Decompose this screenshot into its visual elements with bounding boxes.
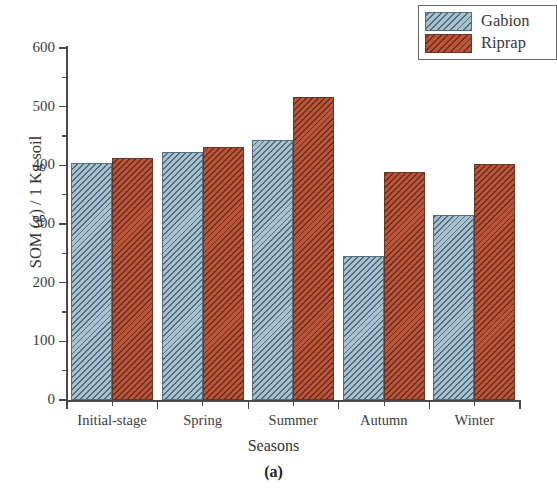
y-tick-label: 0	[1, 392, 55, 407]
bar-gabion-spring	[162, 152, 203, 400]
x-tick-minor	[474, 401, 475, 406]
legend-label-riprap: Riprap	[481, 33, 526, 53]
legend-item-riprap: Riprap	[425, 32, 550, 54]
x-tick-label: Initial-stage	[77, 412, 146, 429]
y-tick-label: 600	[1, 40, 55, 55]
x-tick-minor	[202, 401, 203, 406]
x-tick-major	[66, 401, 67, 409]
x-tick-major	[338, 401, 339, 409]
y-axis-title: SOM (g) / 1 Kg soil	[26, 102, 46, 302]
bar-riprap-initial-stage	[112, 158, 153, 400]
x-tick-major	[157, 401, 158, 409]
x-tick-major	[519, 401, 520, 409]
bar-riprap-summer	[293, 97, 334, 400]
y-tick-major	[59, 223, 67, 224]
y-tick-major	[59, 106, 67, 107]
y-tick-label: 100	[1, 333, 55, 348]
plot-area	[67, 48, 520, 400]
bar-gabion-initial-stage	[71, 163, 112, 400]
chart-legend: Gabion Riprap	[418, 5, 557, 60]
x-tick-minor	[293, 401, 294, 406]
x-tick-label: Summer	[269, 412, 318, 429]
bar-gabion-summer	[252, 140, 293, 400]
x-tick-minor	[112, 401, 113, 406]
x-tick-major	[429, 401, 430, 409]
y-tick-major	[59, 165, 67, 166]
bar-gabion-autumn	[343, 256, 384, 400]
legend-swatch-gabion	[425, 12, 472, 31]
y-tick-major	[59, 341, 67, 342]
y-tick-major	[59, 282, 67, 283]
bar-gabion-winter	[433, 215, 474, 400]
bar-riprap-spring	[203, 147, 244, 400]
x-axis-title: Seasons	[0, 437, 547, 455]
x-tick-major	[248, 401, 249, 409]
legend-label-gabion: Gabion	[481, 11, 530, 31]
y-tick-major	[59, 47, 67, 48]
x-tick-label: Winter	[455, 412, 495, 429]
x-tick-label: Autumn	[360, 412, 408, 429]
bar-riprap-autumn	[384, 172, 425, 400]
legend-swatch-riprap	[425, 34, 472, 53]
figure-caption: (a)	[0, 463, 547, 481]
x-tick-label: Spring	[183, 412, 222, 429]
x-tick-minor	[384, 401, 385, 406]
legend-item-gabion: Gabion	[425, 10, 550, 32]
bar-riprap-winter	[474, 164, 515, 400]
